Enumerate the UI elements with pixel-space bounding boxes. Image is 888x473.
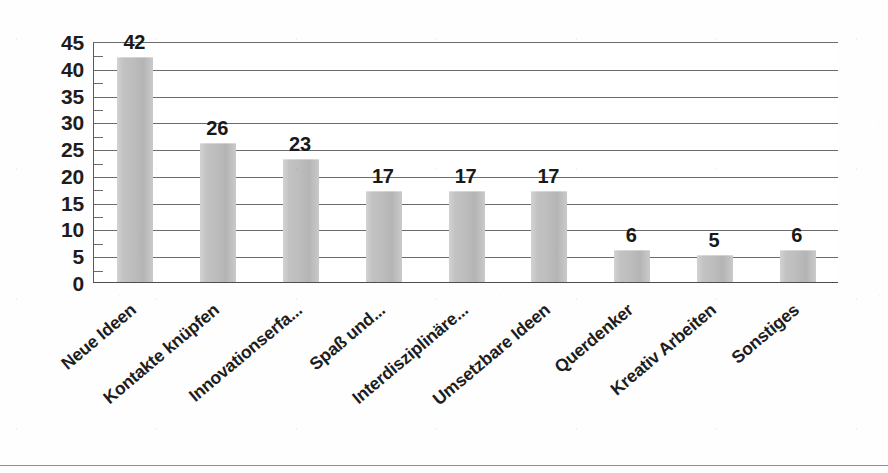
gridline: [94, 97, 838, 98]
bar: [697, 255, 733, 282]
bar: [614, 250, 650, 282]
y-axis: 454035302520151050: [34, 42, 84, 283]
bottom-divider: [0, 465, 888, 466]
y-axis-tick: [94, 83, 103, 84]
bar-value-label: 23: [277, 134, 323, 154]
y-axis-label: 15: [40, 192, 84, 213]
y-axis-label: 5: [40, 246, 84, 267]
bar-value-label: 17: [443, 166, 489, 186]
y-axis-label: 20: [40, 165, 84, 186]
bar-value-label: 5: [691, 230, 737, 250]
bar: [366, 191, 402, 282]
y-axis-label: 30: [40, 112, 84, 133]
chart-page: 454035302520151050 42Neue Ideen26Kontakt…: [0, 0, 888, 473]
bar-value-label: 6: [774, 225, 820, 245]
bar: [780, 250, 816, 282]
y-axis-tick: [94, 56, 103, 57]
bar-value-label: 17: [360, 166, 406, 186]
bar: [449, 191, 485, 282]
y-axis-tick: [94, 271, 103, 272]
y-axis-label: 0: [40, 273, 84, 294]
bar-value-label: 26: [194, 118, 240, 138]
bar: [200, 143, 236, 282]
y-axis-tick: [94, 164, 103, 165]
y-axis-label: 10: [40, 219, 84, 240]
y-axis-label: 25: [40, 139, 84, 160]
bar: [531, 191, 567, 282]
gridline: [94, 70, 838, 71]
y-axis-tick: [94, 190, 103, 191]
bar-value-label: 6: [608, 225, 654, 245]
y-axis-tick: [94, 110, 103, 111]
y-axis-tick: [94, 137, 103, 138]
y-axis-tick: [94, 244, 103, 245]
bar-value-label: 42: [111, 32, 157, 52]
y-axis-tick: [94, 217, 103, 218]
bar-value-label: 17: [525, 166, 571, 186]
y-axis-label: 35: [40, 85, 84, 106]
y-axis-label: 45: [40, 32, 84, 53]
y-axis-label: 40: [40, 58, 84, 79]
bar: [117, 57, 153, 282]
bar: [283, 159, 319, 282]
